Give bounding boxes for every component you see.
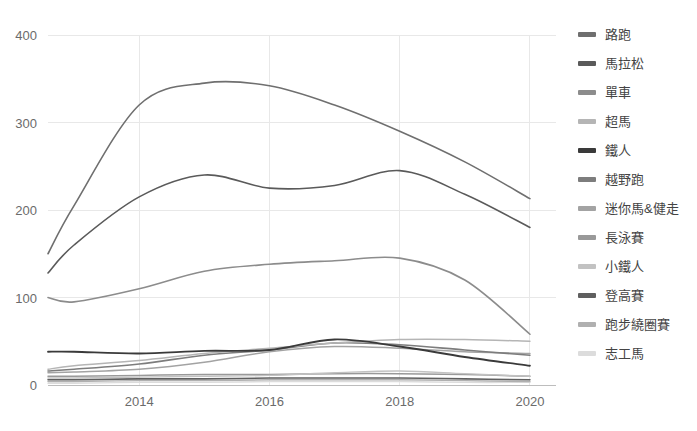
legend-swatch-icon xyxy=(578,177,596,182)
legend-swatch-icon xyxy=(578,61,596,66)
legend-item-label: 迷你馬&健走 xyxy=(605,202,679,215)
x-axis-tick-labels: 2014201620182020 xyxy=(125,394,545,409)
line-chart: 0100200300400 2014201620182020 路跑馬拉松單車超馬… xyxy=(0,0,697,431)
legend-item-label: 長泳賽 xyxy=(605,231,644,244)
legend-item-label: 越野跑 xyxy=(605,173,644,186)
series-line xyxy=(48,171,530,273)
legend-item[interactable]: 馬拉松 xyxy=(578,49,693,78)
series-line xyxy=(48,339,530,369)
y-axis-tick-label: 200 xyxy=(15,203,37,218)
legend-swatch-icon xyxy=(578,264,596,269)
y-axis-tick-label: 400 xyxy=(15,28,37,43)
legend-swatch-icon xyxy=(578,322,596,327)
legend-item[interactable]: 登高賽 xyxy=(578,281,693,310)
series-lines xyxy=(48,82,530,384)
x-axis-tick-label: 2016 xyxy=(255,394,284,409)
series-line xyxy=(48,257,530,334)
legend-item-label: 登高賽 xyxy=(605,289,644,302)
legend-item[interactable]: 單車 xyxy=(578,78,693,107)
legend-swatch-icon xyxy=(578,235,596,240)
gridlines xyxy=(48,35,556,385)
legend-swatch-icon xyxy=(578,119,596,124)
legend-item-label: 跑步繞圈賽 xyxy=(605,318,670,331)
legend-swatch-icon xyxy=(578,32,596,37)
x-axis-tick-label: 2020 xyxy=(515,394,544,409)
y-axis-tick-label: 300 xyxy=(15,116,37,131)
legend-swatch-icon xyxy=(578,351,596,356)
legend-item-label: 鐵人 xyxy=(605,144,631,157)
x-axis-tick-label: 2014 xyxy=(125,394,154,409)
legend-item[interactable]: 鐵人 xyxy=(578,136,693,165)
legend-swatch-icon xyxy=(578,148,596,153)
legend-item[interactable]: 路跑 xyxy=(578,20,693,49)
series-line xyxy=(48,381,530,383)
legend-item[interactable]: 小鐵人 xyxy=(578,252,693,281)
legend-item[interactable]: 超馬 xyxy=(578,107,693,136)
legend-item-label: 超馬 xyxy=(605,115,631,128)
legend-item-label: 路跑 xyxy=(605,28,631,41)
legend-swatch-icon xyxy=(578,90,596,95)
legend-item-label: 單車 xyxy=(605,86,631,99)
series-line xyxy=(48,346,530,372)
y-axis-tick-labels: 0100200300400 xyxy=(15,28,37,393)
legend-item[interactable]: 長泳賽 xyxy=(578,223,693,252)
legend-item[interactable]: 志工馬 xyxy=(578,339,693,368)
legend-item[interactable]: 迷你馬&健走 xyxy=(578,194,693,223)
legend-item-label: 小鐵人 xyxy=(605,260,644,273)
legend-swatch-icon xyxy=(578,293,596,298)
chart-legend: 路跑馬拉松單車超馬鐵人越野跑迷你馬&健走長泳賽小鐵人登高賽跑步繞圈賽志工馬 xyxy=(578,20,693,368)
y-axis-tick-label: 100 xyxy=(15,291,37,306)
legend-item-label: 馬拉松 xyxy=(605,57,644,70)
legend-item-label: 志工馬 xyxy=(605,347,644,360)
x-axis-tick-label: 2018 xyxy=(385,394,414,409)
y-axis-tick-label: 0 xyxy=(30,378,37,393)
series-line xyxy=(48,82,530,254)
legend-swatch-icon xyxy=(578,206,596,211)
legend-item[interactable]: 越野跑 xyxy=(578,165,693,194)
legend-item[interactable]: 跑步繞圈賽 xyxy=(578,310,693,339)
